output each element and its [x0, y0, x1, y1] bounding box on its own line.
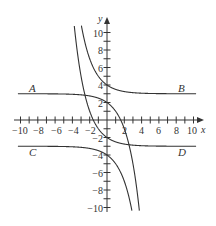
y-axis-label: y [97, 13, 103, 24]
x-tick-label: −10 [12, 125, 28, 136]
y-tick-label: 6 [98, 63, 103, 74]
y-tick-label: −8 [92, 185, 103, 196]
y-tick-label: −6 [92, 168, 103, 179]
x-axis-arrow-icon [197, 117, 204, 123]
curve-label-a: A [28, 82, 36, 94]
x-tick-label: −4 [68, 125, 79, 136]
graph-canvas: −10 −8 −6 −4 −2 2 4 6 8 10 x 10 8 6 4 2 … [0, 0, 216, 226]
y-tick-label: 8 [98, 45, 103, 56]
curve-label-b: B [178, 82, 185, 94]
x-tick-label: 8 [174, 125, 179, 136]
y-axis-arrow-icon [104, 17, 110, 24]
x-tick-label: 4 [139, 125, 144, 136]
x-tick-labels: −10 −8 −6 −4 −2 2 4 6 8 10 [12, 125, 197, 136]
curve-label-d: D [177, 146, 186, 158]
x-axis-label: x [200, 124, 206, 135]
y-tick-label: −10 [87, 203, 103, 214]
x-tick-label: 10 [187, 125, 197, 136]
y-tick-label: −2 [92, 133, 103, 144]
x-tick-label: −8 [33, 125, 44, 136]
x-tick-label: −6 [51, 125, 62, 136]
x-tick-label: 6 [156, 125, 161, 136]
y-tick-label: 10 [93, 28, 103, 39]
curve-label-c: C [29, 146, 37, 158]
